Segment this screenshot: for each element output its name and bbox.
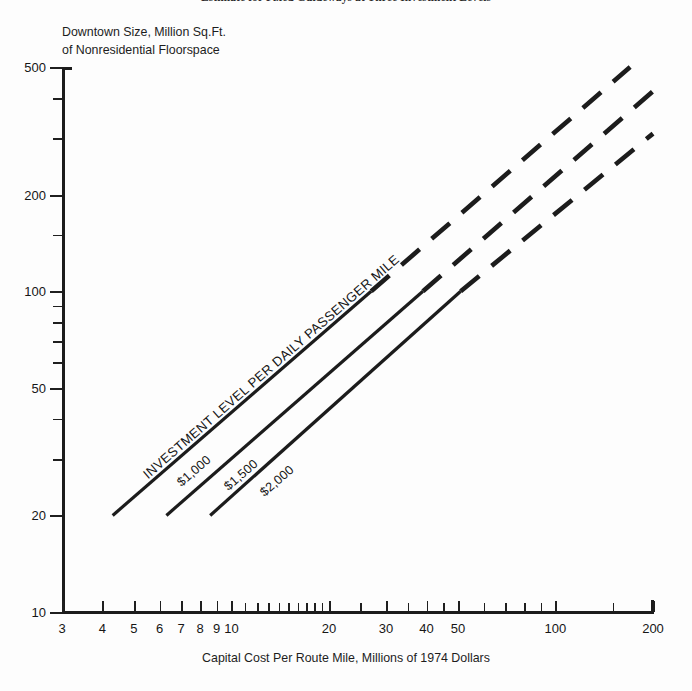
data-lines [62,67,653,612]
chart-page: Estimate for Fixed Guideways at Three In… [0,0,692,691]
x-tick-label: 9 [213,621,220,636]
y-tick-label: 50 [32,380,46,395]
y-tick-minor [53,419,62,421]
y-tick-label: 10 [32,605,46,620]
series-line-solid [210,291,460,515]
y-tick-major [50,612,62,614]
x-tick-label: 30 [379,621,393,636]
x-tick-label: 40 [419,621,433,636]
plot-area: 102050100200500 34567891020304050100200 … [62,67,653,611]
x-tick-label: 6 [156,621,163,636]
x-tick-label: 50 [451,621,465,636]
y-tick-label: 100 [24,284,46,299]
y-tick-major [50,195,62,197]
y-tick-minor [53,459,62,461]
y-tick-major [50,67,62,69]
y-tick-label: 500 [24,60,46,75]
series-line-solid [166,291,423,515]
y-tick-major [50,515,62,517]
y-axis-title: Downtown Size, Million Sq.Ft. of Nonresi… [62,24,226,59]
figure-title: Estimate for Fixed Guideways at Three In… [0,0,692,3]
x-axis-title: Capital Cost Per Route Mile, Millions of… [0,651,692,665]
x-tick-label: 3 [58,621,65,636]
y-tick-major [50,388,62,390]
y-tick-minor [53,306,62,308]
y-tick-minor [53,341,62,343]
x-tick-label: 7 [178,621,185,636]
x-tick-label: 200 [642,621,664,636]
y-axis-title-line-1: Downtown Size, Million Sq.Ft. [62,24,226,42]
series-line-dashed [423,91,653,291]
series-line-dashed [461,134,653,292]
x-tick-label: 20 [322,621,336,636]
x-tick-label: 100 [545,621,567,636]
y-tick-minor [53,98,62,100]
y-axis-title-line-2: of Nonresidential Floorspace [62,42,226,60]
x-tick-label: 5 [130,621,137,636]
y-tick-minor [53,138,62,140]
y-tick-minor [53,235,62,237]
x-tick-label: 8 [196,621,203,636]
y-tick-label: 200 [24,187,46,202]
y-tick-minor [53,322,62,324]
y-tick-minor [53,362,62,364]
x-tick-label: 4 [99,621,106,636]
y-tick-label: 20 [32,508,46,523]
x-tick-label: 10 [224,621,238,636]
y-tick-major [50,291,62,293]
x-tick-major [653,601,655,612]
